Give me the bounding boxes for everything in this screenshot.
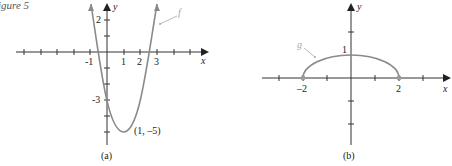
figure-title: igure 5 bbox=[0, 0, 30, 11]
curve-f-arrow-right bbox=[154, 4, 160, 11]
curve-label-g: g bbox=[297, 39, 302, 50]
y-axis-label-b: y bbox=[356, 1, 362, 12]
y-tick-label-1: 1 bbox=[342, 44, 347, 55]
endpoint-left bbox=[301, 76, 306, 81]
x-tick-label-neg1: -1 bbox=[85, 56, 93, 67]
caption-b: (b) bbox=[343, 150, 355, 162]
y-tick-label-2: 2 bbox=[96, 14, 101, 25]
panel-a: -1 1 2 3 2 -3 x y f (1, –5) (a) bbox=[16, 1, 207, 162]
label-pointer-g bbox=[304, 48, 315, 57]
pointer-dot-f bbox=[159, 23, 161, 25]
pointer-dot-g bbox=[314, 56, 316, 58]
vertex-label: (1, –5) bbox=[134, 125, 161, 137]
figure-5: igure 5 -1 bbox=[0, 0, 452, 166]
x-tick-label-1: 1 bbox=[121, 56, 126, 67]
x-tick-label-3: 3 bbox=[154, 56, 159, 67]
x-axis-label-a: x bbox=[200, 55, 206, 66]
x-tick-label-2-b: 2 bbox=[396, 83, 401, 94]
y-tick-label-neg3: -3 bbox=[92, 94, 100, 105]
x-tick-label-2: 2 bbox=[137, 56, 142, 67]
panel-b: g –2 2 1 x y (b) bbox=[262, 1, 449, 162]
x-tick-label-neg2: –2 bbox=[296, 83, 307, 94]
x-axis-label-b: x bbox=[442, 83, 448, 94]
endpoint-right bbox=[397, 76, 402, 81]
label-pointer-f bbox=[160, 16, 177, 24]
curve-label-f: f bbox=[178, 7, 182, 18]
curve-f-arrow-left bbox=[88, 4, 94, 11]
y-axis-label-a: y bbox=[112, 1, 118, 12]
caption-a: (a) bbox=[101, 150, 112, 162]
